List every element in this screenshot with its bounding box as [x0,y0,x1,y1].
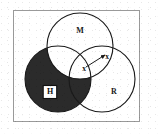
shaded-region-h-minus-m [0,0,161,135]
boxed-label-h: H [43,86,57,99]
x-mark-center: x [82,64,86,73]
shading-fill [0,0,161,135]
circle-label-m: M [76,26,84,35]
venn-diagram-canvas: M R x x H [0,0,161,135]
x-mark-upper-right: x [105,52,109,61]
venn-diagram-figure: M R x x H [0,0,161,135]
boxed-label-letter: H [47,87,54,96]
circle-label-r: R [111,87,117,96]
